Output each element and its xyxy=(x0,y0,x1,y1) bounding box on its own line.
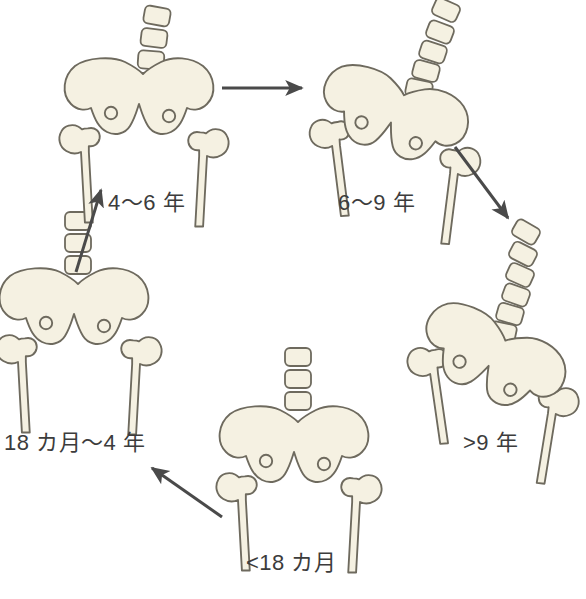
stage-label-gt9y: >9 年 xyxy=(463,432,518,454)
femur-left-4-6y xyxy=(59,125,99,222)
femur-left-18m-4y xyxy=(0,335,37,432)
pelvis-development-diagram: 4〜6 年 6〜9 年 >9 年 18 カ月〜4 年 <18 カ月 xyxy=(0,0,586,599)
stage-label-lt18m: <18 カ月 xyxy=(246,552,336,574)
arrow-lt18m-to-18m4y xyxy=(152,468,222,517)
femur-right-18m-4y xyxy=(121,337,161,434)
pelvis-lt18m xyxy=(220,406,369,482)
pelvis-4-6y xyxy=(65,58,214,134)
femur-right-4-6y xyxy=(188,129,228,226)
pelvis-18m-4y xyxy=(0,268,148,344)
stage-label-4-6y: 4〜6 年 xyxy=(108,192,185,214)
stage-label-6-9y: 6〜9 年 xyxy=(338,192,415,214)
diagram-canvas xyxy=(0,0,586,599)
stage-label-18m-4y: 18 カ月〜4 年 xyxy=(4,432,145,454)
arrow-6-9-to-gt9 xyxy=(455,147,508,218)
femur-right-gt9y xyxy=(530,385,580,486)
stage-18m-4y xyxy=(0,212,162,435)
femur-right-lt18m xyxy=(341,475,381,572)
stage-lt18m xyxy=(216,348,381,573)
spine-lt18m xyxy=(285,348,311,410)
femur-right-6-9y xyxy=(434,146,481,246)
